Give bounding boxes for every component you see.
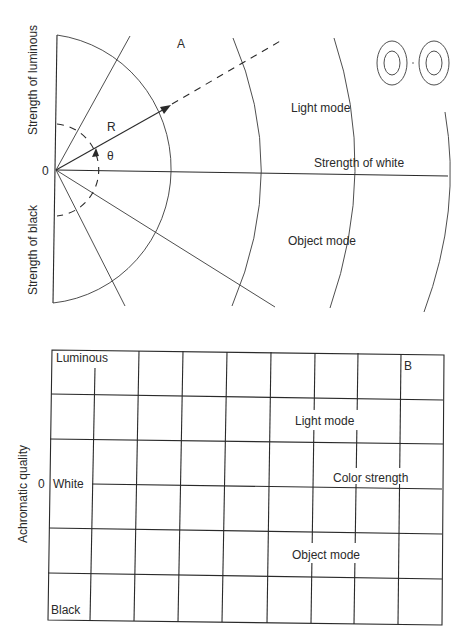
radial-line-down <box>56 170 275 307</box>
object-mode-label-b: Object mode <box>292 548 360 562</box>
white-axis <box>56 170 448 176</box>
achromatic-quality-label: Achromatic quality <box>16 445 30 543</box>
grid-col-line <box>178 351 183 622</box>
grid-col-line <box>354 353 358 624</box>
radius-label: R <box>107 120 116 134</box>
grid-col-line <box>311 353 315 623</box>
panel-b-letter: B <box>404 359 412 373</box>
diagram-canvas: A Strength of luminous Strength of black… <box>0 0 464 634</box>
y-axis-bottom-label: Strength of black <box>26 204 40 295</box>
arc-2 <box>232 38 261 306</box>
panel-b: Luminous B Light mode 0 White Color stre… <box>16 350 444 625</box>
grid-frame <box>48 350 444 625</box>
radius-arrowhead-icon <box>160 105 171 114</box>
light-mode-label-a: Light mode <box>291 101 351 115</box>
ring-symbols-icon <box>377 41 449 85</box>
color-strength-label: Color strength <box>333 471 408 485</box>
black-label: Black <box>51 603 81 617</box>
origin-label-b: 0 <box>38 477 45 491</box>
arc-inner <box>53 35 171 303</box>
light-mode-label-b: Light mode <box>295 414 355 428</box>
grid-row-line <box>51 394 443 400</box>
grid-row-line <box>49 528 442 534</box>
grid-col-line <box>222 352 227 622</box>
radial-line-down-steep <box>56 170 125 306</box>
grid-col-line <box>90 368 95 621</box>
arc-4 <box>424 112 450 312</box>
panel-a-letter: A <box>177 37 185 51</box>
grid-row-line <box>48 573 442 579</box>
white-label: White <box>53 477 84 491</box>
luminous-label: Luminous <box>56 351 108 365</box>
grid-col-line <box>398 354 401 624</box>
radius-extension-dashed <box>172 40 282 104</box>
grid-col-line <box>134 351 139 621</box>
grid-col-line <box>267 352 271 623</box>
radial-line-up <box>56 36 130 170</box>
arc-3 <box>330 38 355 308</box>
angle-label: θ <box>107 149 114 163</box>
grid-row-line <box>50 439 443 444</box>
white-axis-label: Strength of white <box>314 156 404 170</box>
object-mode-label-a: Object mode <box>288 234 356 248</box>
y-axis-top-label: Strength of luminous <box>26 25 40 135</box>
panel-a: A Strength of luminous Strength of black… <box>26 25 450 312</box>
origin-label-a: 0 <box>42 164 49 178</box>
